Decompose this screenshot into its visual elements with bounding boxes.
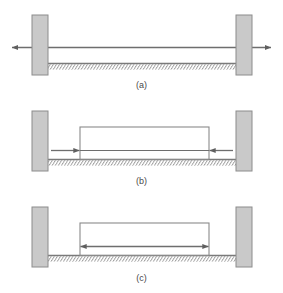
ground-hatching [48, 256, 236, 261]
panel-c-left-support [32, 207, 48, 267]
panel-a-caption: (a) [136, 80, 147, 90]
panel-a-ground [48, 64, 236, 70]
panel-c-caption: (c) [136, 273, 147, 283]
panel-c-right-support [236, 207, 252, 267]
ground-hatching [48, 64, 236, 69]
panel-b-caption: (b) [136, 176, 147, 186]
panel-b-left-support [32, 111, 48, 171]
panel-b-right-support [236, 111, 252, 171]
panel-b-ground [48, 160, 236, 166]
ground-hatching [48, 160, 236, 165]
panel-a-left-support [32, 15, 48, 75]
three-panel-structural-figure: (a) (b) [0, 0, 283, 293]
panel-c-ground [48, 256, 236, 262]
figure-container: (a) (b) [0, 0, 283, 293]
panel-a-right-support [236, 15, 252, 75]
